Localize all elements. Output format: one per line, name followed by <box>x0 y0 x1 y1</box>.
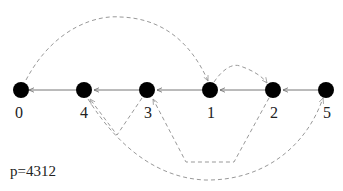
node-label-0: 0 <box>15 104 23 122</box>
node-1 <box>202 82 218 98</box>
edge-0-1 <box>26 17 208 81</box>
node-4 <box>76 82 92 98</box>
permutation-caption: p=4312 <box>10 163 56 180</box>
node-label-3: 3 <box>144 104 152 122</box>
graph-diagram: 0 4 3 1 2 5 p=4312 <box>0 0 343 191</box>
node-label-1: 1 <box>207 104 215 122</box>
node-5 <box>318 82 334 98</box>
node-label-4: 4 <box>80 104 88 122</box>
edge-4-5 <box>88 98 323 180</box>
edge-1-2 <box>214 65 267 83</box>
node-2 <box>265 82 281 98</box>
node-label-2: 2 <box>270 104 278 122</box>
dashed-edges <box>26 17 323 180</box>
node-3 <box>139 82 155 98</box>
node-label-5: 5 <box>323 104 331 122</box>
node-0 <box>13 82 29 98</box>
edge-3-4 <box>90 98 142 135</box>
